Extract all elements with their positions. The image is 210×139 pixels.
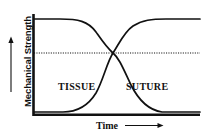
suture-curve bbox=[34, 19, 200, 112]
y-axis-title: Mechanical Strength bbox=[22, 0, 33, 127]
arrow-right-icon bbox=[125, 123, 164, 128]
arrow-up-icon bbox=[8, 37, 13, 93]
x-axis-title: Time bbox=[96, 120, 118, 131]
tissue-curve bbox=[34, 19, 200, 112]
suture-curve-label: SUTURE bbox=[126, 81, 168, 92]
tissue-curve-label: TISSUE bbox=[58, 81, 95, 92]
figure-container: Mechanical Strength Time TISSUE SUTURE bbox=[0, 0, 210, 139]
